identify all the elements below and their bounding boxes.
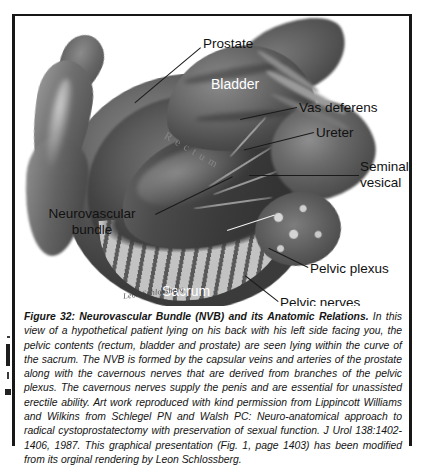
label-pelvic-nerves: Pelvic nerves	[280, 295, 360, 306]
figure-caption-title: Figure 32: Neurovascular Bundle (NVB) an…	[24, 311, 369, 322]
scan-speck-1	[7, 336, 10, 338]
figure-caption-body: In this view of a hypothetical patient l…	[24, 311, 402, 465]
label-seminal-vesical: Seminal vesical	[360, 159, 409, 191]
scan-speck-4	[5, 389, 11, 395]
leader-line-seminal-vesical	[249, 175, 359, 176]
label-nvb-line1: Neurovascular	[29, 206, 155, 222]
label-prostate: Prostate	[203, 36, 253, 51]
figure-caption: Figure 32: Neurovascular Bundle (NVB) an…	[24, 310, 402, 467]
anatomical-illustration: Rectum	[15, 16, 409, 306]
scan-margin-artifacts	[0, 0, 12, 446]
label-seminal-vesical-line1: Seminal	[360, 159, 409, 175]
scan-speck-3	[7, 372, 9, 379]
label-ureter: Ureter	[316, 125, 354, 140]
label-pelvic-plexus: Pelvic plexus	[310, 261, 389, 276]
label-neurovascular-bundle: Neurovascular bundle	[29, 206, 155, 238]
label-vas-deferens: Vas deferens	[299, 100, 378, 115]
label-seminal-vesical-line2: vesical	[360, 175, 409, 191]
scan-speck-2	[6, 344, 10, 366]
label-nvb-line2: bundle	[29, 222, 155, 238]
page-frame-right-rule	[409, 14, 412, 446]
label-bladder: Bladder	[211, 77, 259, 92]
illustration-artwork: Rectum	[15, 16, 409, 306]
